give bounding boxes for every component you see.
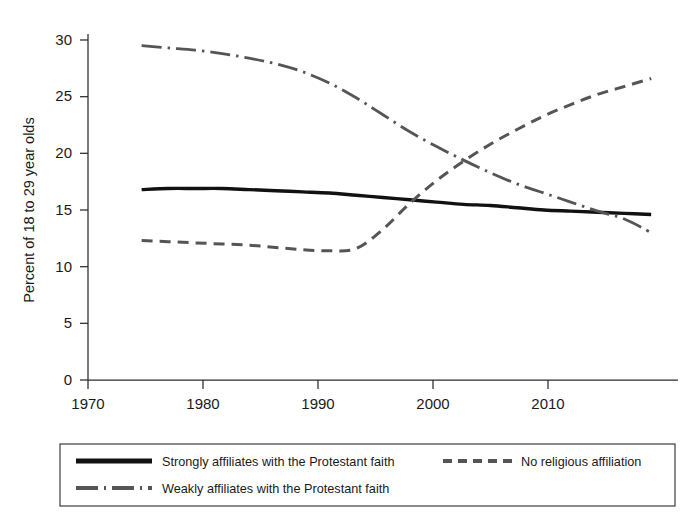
y-tick-label-5: 5	[64, 314, 72, 331]
y-tick-label-30: 30	[55, 31, 72, 48]
y-tick-label-0: 0	[64, 371, 72, 388]
x-tick-label-2010: 2010	[531, 395, 564, 412]
legend-border	[60, 444, 675, 506]
x-tick-label-2000: 2000	[416, 395, 449, 412]
y-axis-title: Percent of 18 to 29 year olds	[21, 117, 37, 302]
y-tick-label-20: 20	[55, 144, 72, 161]
chart-svg: Percent of 18 to 29 year olds 30 25 20 1…	[0, 0, 692, 518]
legend-label-weakly-affiliates: Weakly affiliates with the Protestant fa…	[162, 482, 389, 496]
x-tick-label-1970: 1970	[71, 395, 104, 412]
legend-label-no-religious-affiliation: No religious affiliation	[521, 455, 641, 469]
x-tick-label-1980: 1980	[186, 395, 219, 412]
legend-label-strongly-affiliates: Strongly affiliates with the Protestant …	[162, 455, 395, 469]
x-tick-label-1990: 1990	[301, 395, 334, 412]
y-tick-label-25: 25	[55, 87, 72, 104]
chart-background	[0, 0, 692, 518]
y-tick-label-10: 10	[55, 258, 72, 275]
chart-legend: Strongly affiliates with the Protestant …	[60, 444, 675, 506]
y-tick-label-15: 15	[55, 201, 72, 218]
chart-figure: Percent of 18 to 29 year olds 30 25 20 1…	[0, 0, 692, 518]
